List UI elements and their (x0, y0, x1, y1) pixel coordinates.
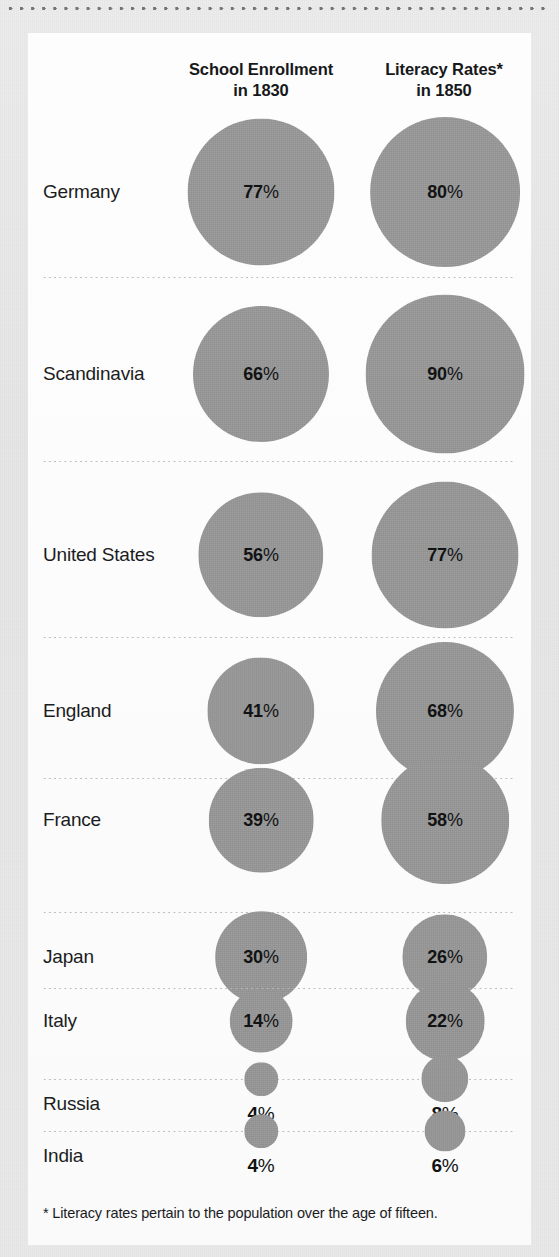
bubble-circle: 56% (198, 492, 323, 617)
bubble-circle: 66% (193, 306, 329, 442)
bubble-enrollment[interactable] (244, 1114, 278, 1148)
bubble-value-literacy: 90% (427, 365, 462, 383)
bubble-value-number: 80 (427, 182, 447, 202)
infographic-page: School Enrollment in 1830 Literacy Rates… (0, 0, 559, 1257)
bubble-enrollment[interactable]: 39% (209, 768, 314, 873)
country-rows: Germany77%80%Scandinavia66%90%United Sta… (28, 33, 531, 1245)
bubble-value-literacy: 6% (431, 1156, 458, 1175)
row-country-label: England (43, 700, 111, 722)
bubble-circle: 58% (381, 756, 509, 884)
row-country-label: Russia (43, 1093, 100, 1115)
bubble-value-literacy: 22% (427, 1012, 462, 1030)
row-divider (43, 637, 516, 638)
bubble-value-enrollment: 41% (243, 702, 278, 720)
bubble-value-enrollment: 30% (243, 948, 278, 966)
infographic-card: School Enrollment in 1830 Literacy Rates… (28, 33, 531, 1245)
bubble-circle: 39% (209, 768, 314, 873)
bubble-value-literacy: 80% (427, 183, 462, 201)
bubble-value-enrollment: 77% (243, 183, 278, 201)
bubble-value-number: 58 (427, 810, 447, 830)
bubble-value-number: 4 (247, 1155, 257, 1176)
bubble-value-number: 22 (427, 1011, 447, 1031)
percent-sign: % (263, 364, 279, 384)
percent-sign: % (447, 182, 463, 202)
bubble-literacy[interactable]: 22% (406, 982, 485, 1061)
row-divider (43, 277, 516, 278)
bubble-enrollment[interactable]: 56% (198, 492, 323, 617)
percent-sign: % (447, 545, 463, 565)
bubble-literacy[interactable]: 90% (366, 295, 525, 454)
bubble-circle: 14% (230, 990, 293, 1053)
bubble-circle (421, 1055, 468, 1102)
bubble-value-number: 77 (243, 182, 263, 202)
percent-sign: % (442, 1155, 459, 1176)
bubble-circle (424, 1110, 465, 1151)
row-country-label: United States (43, 544, 154, 566)
bubble-value-number: 68 (427, 701, 447, 721)
row-country-label: Scandinavia (43, 363, 144, 385)
bubble-circle (244, 1114, 278, 1148)
bubble-value-literacy: 58% (427, 811, 462, 829)
bubble-literacy[interactable]: 58% (381, 756, 509, 884)
row-country-label: India (43, 1145, 83, 1167)
percent-sign: % (263, 182, 279, 202)
percent-sign: % (447, 947, 463, 967)
top-dotted-rule (8, 6, 551, 11)
bubble-enrollment[interactable]: 14% (230, 990, 293, 1053)
bubble-value-number: 41 (243, 701, 263, 721)
bubble-circle: 77% (372, 482, 519, 629)
percent-sign: % (447, 701, 463, 721)
bubble-enrollment[interactable]: 66% (193, 306, 329, 442)
percent-sign: % (263, 947, 279, 967)
bubble-value-number: 66 (243, 364, 263, 384)
bubble-value-number: 14 (243, 1011, 263, 1031)
percent-sign: % (258, 1155, 275, 1176)
row-country-label: France (43, 809, 101, 831)
percent-sign: % (263, 810, 279, 830)
bubble-value-literacy: 68% (427, 702, 462, 720)
percent-sign: % (447, 1011, 463, 1031)
bubble-circle: 80% (370, 117, 520, 267)
bubble-circle: 41% (207, 657, 314, 764)
bubble-value-literacy: 26% (427, 948, 462, 966)
bubble-literacy[interactable]: 80% (370, 117, 520, 267)
percent-sign: % (263, 701, 279, 721)
bubble-value-enrollment: 66% (243, 365, 278, 383)
bubble-enrollment[interactable]: 41% (207, 657, 314, 764)
bubble-circle (244, 1062, 278, 1096)
bubble-value-enrollment: 39% (243, 811, 278, 829)
bubble-value-enrollment: 4% (247, 1156, 274, 1175)
bubble-value-number: 26 (427, 947, 447, 967)
bubble-circle: 90% (366, 295, 525, 454)
bubble-value-number: 6 (431, 1155, 441, 1176)
percent-sign: % (263, 545, 279, 565)
bubble-value-number: 77 (427, 545, 447, 565)
bubble-circle: 22% (406, 982, 485, 1061)
bubble-value-literacy: 77% (427, 546, 462, 564)
row-divider (43, 461, 516, 462)
bubble-literacy[interactable]: 77% (372, 482, 519, 629)
bubble-literacy[interactable] (421, 1055, 468, 1102)
bubble-literacy[interactable] (424, 1110, 465, 1151)
bubble-value-enrollment: 14% (243, 1012, 278, 1030)
footnote: * Literacy rates pertain to the populati… (43, 1205, 521, 1221)
bubble-value-enrollment: 56% (243, 546, 278, 564)
bubble-value-number: 30 (243, 947, 263, 967)
row-country-label: Japan (43, 946, 94, 968)
row-country-label: Italy (43, 1010, 77, 1032)
bubble-value-number: 56 (243, 545, 263, 565)
percent-sign: % (263, 1011, 279, 1031)
bubble-enrollment[interactable] (244, 1062, 278, 1096)
bubble-enrollment[interactable]: 77% (188, 119, 335, 266)
percent-sign: % (447, 364, 463, 384)
bubble-value-number: 39 (243, 810, 263, 830)
bubble-circle: 77% (188, 119, 335, 266)
row-country-label: Germany (43, 181, 120, 203)
bubble-value-number: 90 (427, 364, 447, 384)
percent-sign: % (447, 810, 463, 830)
